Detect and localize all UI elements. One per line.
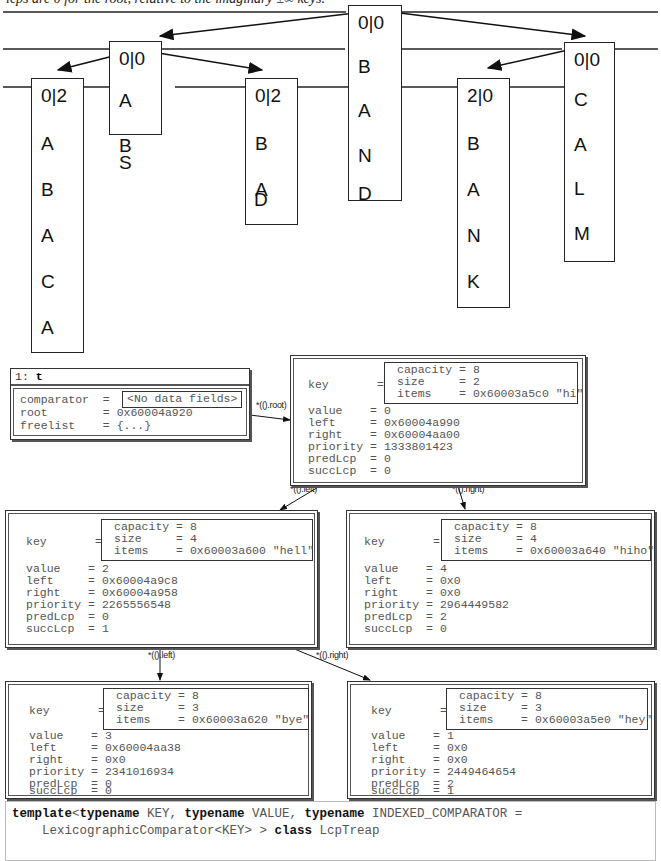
key-struct: capacity = 8 size = 4 items = 0x60003a64… [441, 519, 651, 561]
field-succlcp-bye: succLcp = 0 [29, 785, 112, 798]
panel-title: 1: t [11, 369, 249, 386]
display-panel-t[interactable]: 1: t comparator = <No data fields> root … [10, 368, 250, 440]
field-freelist: freelist = {...} [20, 420, 151, 433]
display-panel-node-hell[interactable]: key = capacity = 8 size = 4 items = 0x60… [5, 510, 318, 648]
field-root: root = 0x60004a920 [20, 407, 193, 420]
field-succlcp: succLcp = 1 [26, 623, 109, 636]
key-struct: capacity = 8 size = 3 items = 0x60003a5e… [446, 688, 648, 730]
display-panel-node-hi[interactable]: key = capacity = 8 size = 2 items = 0x60… [290, 355, 586, 486]
key-label: key = [371, 705, 447, 718]
key-label: key = [364, 536, 440, 549]
key-label: key = [26, 536, 102, 549]
edge-label-root: *(().root) [256, 400, 287, 410]
field-succlcp-hey: succLcp = 1 [371, 785, 454, 798]
display-panel-node-bye[interactable]: key = capacity = 8 size = 3 items = 0x60… [5, 681, 312, 799]
key-struct: capacity = 8 size = 3 items = 0x60003a62… [103, 688, 309, 730]
key-struct: capacity = 8 size = 4 items = 0x60003a60… [101, 519, 313, 561]
display-panel-node-hiho[interactable]: key = capacity = 8 size = 4 items = 0x60… [346, 510, 655, 648]
field-succlcp: succLcp = 0 [308, 465, 391, 478]
edge-label-hell-right: *(().right) [316, 650, 348, 660]
key-label: key = [29, 705, 105, 718]
display-panel-node-hey[interactable]: key = capacity = 8 size = 3 items = 0x60… [347, 681, 655, 799]
code-listing: template<typename KEY, typename VALUE, t… [5, 801, 656, 861]
edge-label-hell-left: *(().left) [148, 650, 175, 660]
key-label: key = [308, 379, 384, 392]
key-struct: capacity = 8 size = 2 items = 0x60003a5c… [384, 362, 578, 404]
field-succlcp: succLcp = 0 [364, 623, 447, 636]
field-comparator: comparator = [20, 394, 110, 407]
